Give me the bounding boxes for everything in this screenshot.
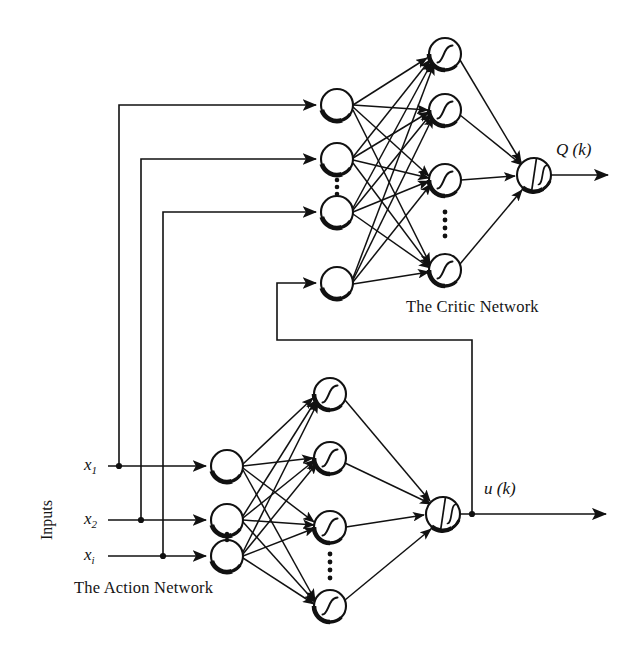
action-input-nodes	[211, 450, 243, 572]
action-output-node	[426, 497, 460, 531]
critic-synapses-hidden-to-output	[460, 60, 522, 264]
action-hidden-node-2	[314, 442, 346, 474]
action-network-label: The Action Network	[74, 578, 213, 598]
action-hidden-node-4	[314, 590, 346, 622]
critic-hidden-nodes	[429, 38, 461, 286]
input-label-x2: x2	[84, 509, 97, 530]
critic-hidden-node-4	[429, 254, 461, 286]
feedback-path-uk-to-critic	[277, 283, 472, 514]
critic-input-node-1	[321, 89, 353, 121]
input-bus-lines	[108, 466, 206, 556]
critic-output-node	[517, 158, 551, 192]
inputs-axis-label: Inputs	[38, 500, 56, 540]
critic-hidden-node-3	[429, 164, 461, 196]
critic-synapses-input-to-hidden	[353, 58, 434, 284]
action-hidden-ellipsis-icon	[328, 552, 333, 581]
critic-input-node-3	[321, 196, 353, 228]
input-label-xi: xi	[84, 545, 95, 566]
feedback-path-xi-to-critic	[163, 212, 316, 556]
action-hidden-nodes	[314, 378, 346, 622]
action-hidden-node-1	[314, 378, 346, 410]
critic-output-label: Q (k)	[556, 140, 591, 160]
critic-hidden-node-1	[429, 38, 461, 70]
network-diagram-figure: The Critic Network The Action Network In…	[0, 0, 644, 664]
critic-hidden-node-2	[429, 94, 461, 126]
action-output-label: u (k)	[484, 479, 516, 499]
critic-hidden-ellipsis-icon	[443, 210, 448, 239]
action-input-node-1	[211, 450, 243, 482]
critic-input-ellipsis-icon	[335, 178, 340, 197]
action-input-node-3	[211, 540, 243, 572]
critic-input-node-4	[321, 267, 353, 299]
action-synapses-input-to-hidden	[243, 398, 318, 604]
critic-network-label: The Critic Network	[406, 297, 539, 317]
diagram-canvas	[0, 0, 644, 664]
critic-input-node-2	[321, 143, 353, 175]
input-label-x1: x1	[84, 455, 97, 476]
action-hidden-node-3	[314, 511, 346, 543]
action-input-node-2	[211, 504, 243, 536]
action-synapses-hidden-to-output	[345, 400, 431, 600]
